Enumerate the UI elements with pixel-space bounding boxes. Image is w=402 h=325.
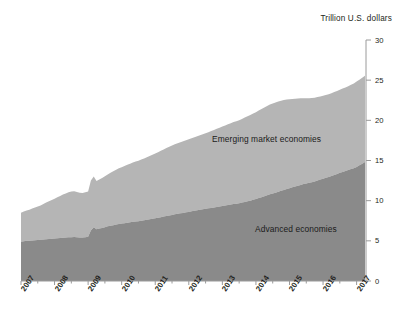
y-tick-label-20: 20: [375, 116, 383, 125]
series-label-emerging-market-economies: Emerging market economies: [212, 134, 321, 144]
y-tick-label-15: 15: [375, 156, 383, 165]
series-areas: [21, 76, 365, 281]
chart-container: Trillion U.S. dollars 051015202530 20072…: [0, 0, 402, 325]
y-tick-label-5: 5: [375, 236, 379, 245]
y-tick-label-25: 25: [375, 76, 383, 85]
y-tick-label-0: 0: [375, 277, 379, 286]
series-label-advanced-economies: Advanced economies: [255, 224, 337, 234]
y-tick-label-30: 30: [375, 36, 383, 45]
y-tick-label-10: 10: [375, 196, 383, 205]
